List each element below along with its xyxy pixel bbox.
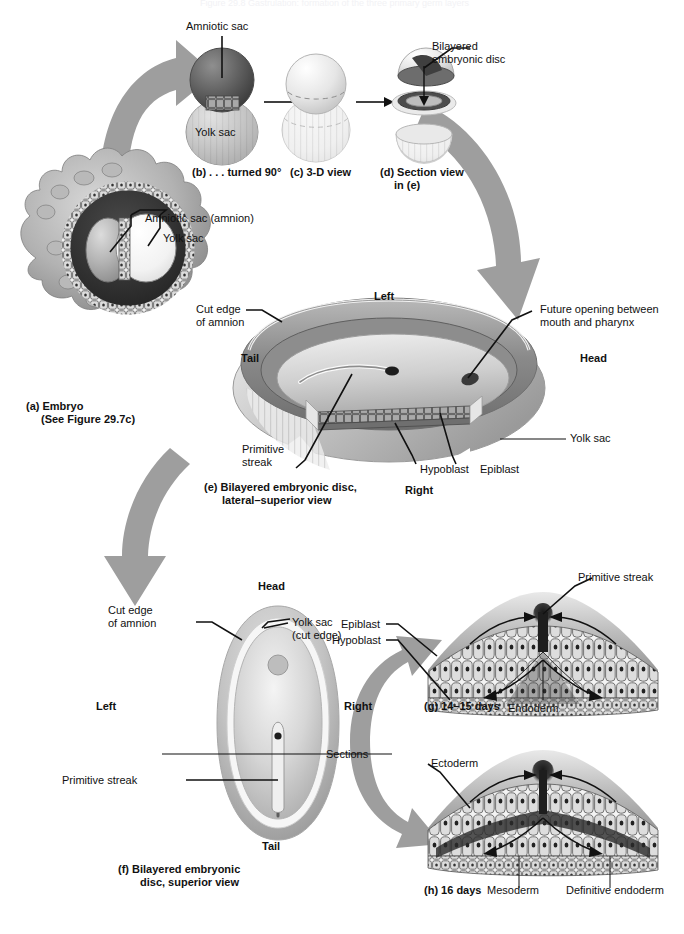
label-f-cut-edge-1: Cut edge — [108, 604, 153, 617]
label-e-yolk-sac: Yolk sac — [570, 432, 611, 445]
label-e-primitive-1: Primitive — [242, 443, 284, 456]
label-e-cut-edge-2: of amnion — [196, 316, 244, 329]
label-e-primitive-2: streak — [242, 456, 272, 469]
caption-panel-g: (g) 14–15 days — [424, 700, 500, 714]
label-e-future-opening-1: Future opening between — [540, 303, 659, 316]
label-f-sections: Sections — [326, 748, 368, 761]
label-yolk-sac-a: Yolk sac — [163, 232, 204, 245]
label-yolk-sac-b: Yolk sac — [195, 126, 236, 139]
label-f-yolk-sac-1: Yolk sac — [292, 616, 333, 629]
label-e-cut-edge-1: Cut edge — [196, 303, 241, 316]
orientation-f-left: Left — [96, 700, 116, 714]
label-e-future-opening-2: mouth and pharynx — [540, 316, 634, 329]
caption-panel-a-line1: (a) Embryo — [26, 400, 83, 414]
label-amniotic-sac-amnion: Amniotic sac (amnion) — [145, 212, 254, 225]
caption-panel-h: (h) 16 days — [424, 884, 481, 898]
caption-panel-e-line1: (e) Bilayered embryonic disc, — [204, 481, 357, 495]
label-g-endoderm: Endoderm — [508, 702, 559, 715]
orientation-e-head: Head — [580, 352, 607, 366]
label-g-epiblast: Epiblast — [341, 618, 380, 631]
caption-panel-a-line2: (See Figure 29.7c) — [41, 413, 135, 427]
orientation-f-head: Head — [258, 580, 285, 594]
label-bilayered-line1: Bilayered — [432, 40, 478, 53]
caption-panel-d-line1: (d) Section view — [380, 166, 464, 180]
label-g-primitive-streak: Primitive streak — [578, 571, 653, 584]
panel-h-art — [428, 750, 658, 888]
orientation-f-right: Right — [344, 700, 372, 714]
caption-panel-d-line2: in (e) — [394, 179, 420, 193]
orientation-e-left: Left — [374, 290, 394, 304]
label-e-hypoblast: Hypoblast — [420, 463, 469, 476]
label-g-hypoblast: Hypoblast — [332, 634, 381, 647]
orientation-e-right: Right — [405, 484, 433, 498]
label-e-epiblast: Epiblast — [480, 463, 519, 476]
caption-panel-f-line2: disc, superior view — [140, 876, 239, 890]
label-h-mesoderm: Mesoderm — [487, 884, 539, 897]
label-h-ectoderm: Ectoderm — [431, 757, 478, 770]
orientation-f-tail: Tail — [262, 840, 280, 854]
label-h-definitive-endoderm: Definitive endoderm — [566, 884, 664, 897]
label-amniotic-sac-b: Amniotic sac — [186, 20, 248, 33]
caption-panel-b: (b) . . . turned 90° — [192, 166, 281, 180]
label-f-primitive-streak: Primitive streak — [62, 774, 137, 787]
orientation-e-tail: Tail — [241, 352, 259, 366]
flow-arrow-e-to-f — [104, 448, 190, 606]
panel-a-embryo-art — [21, 148, 211, 313]
panel-g-art — [386, 578, 658, 716]
caption-panel-c: (c) 3-D view — [290, 166, 351, 180]
caption-panel-f-line1: (f) Bilayered embryonic — [118, 863, 240, 877]
caption-panel-e-line2: lateral–superior view — [222, 494, 331, 508]
label-embryonic-disc-line2: embryonic disc — [432, 53, 505, 66]
panel-c-art — [282, 54, 394, 162]
figure-artwork — [0, 0, 684, 934]
label-f-cut-edge-2: of amnion — [108, 617, 156, 630]
